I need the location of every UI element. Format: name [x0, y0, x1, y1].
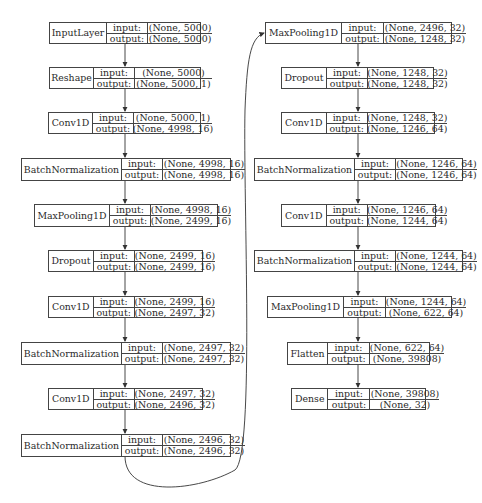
- layer-node-conv1d: Conv1D input:(None, 1246, 64) output:(No…: [281, 204, 436, 227]
- layer-name: Reshape: [50, 68, 94, 88]
- output-label: output:: [327, 79, 368, 89]
- input-label: input:: [93, 113, 134, 123]
- layer-node-conv1d: Conv1D input:(None, 5000, 1) output:(Non…: [48, 112, 201, 134]
- layer-name: BatchNormalization: [22, 435, 122, 456]
- input-shape: (None, 2497, 32): [135, 389, 215, 399]
- layer-name: Conv1D: [49, 297, 94, 317]
- output-label: output:: [122, 170, 163, 180]
- layer-node-conv1d: Conv1D input:(None, 2499, 16) output:(No…: [48, 296, 203, 318]
- input-shape: (None, 4998, 16): [151, 205, 231, 215]
- layer-node-batchnormalization: BatchNormalization input:(None, 1244, 64…: [254, 250, 463, 272]
- output-label: output:: [107, 34, 148, 44]
- layer-node-batchnormalization: BatchNormalization input:(None, 2496, 32…: [21, 434, 231, 457]
- output-shape: (None, 622, 64): [386, 308, 466, 318]
- layer-name: Conv1D: [282, 113, 327, 133]
- input-label: input:: [355, 251, 396, 261]
- input-shape: (None, 5000): [148, 23, 212, 33]
- input-label: input:: [355, 159, 396, 169]
- output-label: output:: [110, 216, 151, 226]
- input-label: input:: [342, 23, 384, 33]
- input-label: input:: [94, 251, 135, 261]
- layer-name: Conv1D: [282, 205, 327, 226]
- input-label: input:: [328, 343, 370, 353]
- output-shape: (None, 2499, 16): [151, 216, 231, 226]
- layer-name: BatchNormalization: [255, 159, 355, 180]
- input-shape: (None, 1244, 64): [386, 297, 466, 307]
- layer-name: BatchNormalization: [255, 251, 355, 271]
- layer-node-conv1d: Conv1D input:(None, 1248, 32) output:(No…: [281, 112, 435, 134]
- input-shape: (None, 2499, 16): [135, 297, 215, 307]
- layer-node-dropout: Dropout input:(None, 1248, 32) output:(N…: [281, 67, 434, 89]
- input-label: input:: [327, 68, 368, 78]
- layer-node-maxpooling1d: MaxPooling1D input:(None, 1244, 64) outp…: [267, 296, 452, 318]
- output-shape: (None, 2497, 32): [135, 308, 215, 318]
- output-label: output:: [94, 79, 135, 89]
- output-label: output:: [344, 308, 386, 318]
- input-shape: (None, 5000, 1): [134, 113, 212, 123]
- input-shape: (None, 1244, 64): [396, 251, 477, 261]
- output-label: output:: [355, 170, 396, 180]
- layer-name: MaxPooling1D: [35, 205, 110, 226]
- output-label: output:: [93, 124, 134, 134]
- layer-name: Conv1D: [49, 389, 94, 409]
- layer-name: Dropout: [49, 251, 94, 271]
- layer-node-batchnormalization: BatchNormalization input:(None, 2497, 32…: [21, 342, 231, 365]
- input-label: input:: [94, 297, 135, 307]
- layer-name: Conv1D: [49, 113, 93, 133]
- input-shape: (None, 5000): [135, 68, 212, 78]
- output-shape: (None, 4998, 16): [134, 124, 212, 134]
- output-label: output:: [342, 34, 384, 44]
- output-shape: (None, 5000, 1): [135, 79, 212, 89]
- output-label: output:: [328, 400, 370, 410]
- input-label: input:: [344, 297, 386, 307]
- input-shape: (None, 1246, 64): [368, 205, 447, 215]
- output-label: output:: [94, 308, 135, 318]
- input-label: input:: [107, 23, 148, 33]
- layer-node-inputlayer: InputLayer input:(None, 5000) output:(No…: [49, 22, 201, 44]
- layer-name: MaxPooling1D: [268, 297, 344, 317]
- output-shape: (None, 1248, 32): [368, 79, 447, 89]
- layer-node-dropout: Dropout input:(None, 2499, 16) output:(N…: [48, 250, 203, 272]
- output-shape: (None, 2496, 32): [163, 446, 245, 456]
- layer-name: Dense: [292, 389, 328, 409]
- output-label: output:: [327, 124, 368, 134]
- output-shape: (None, 1246, 64): [368, 124, 447, 134]
- layer-node-conv1d: Conv1D input:(None, 2497, 32) output:(No…: [48, 388, 203, 410]
- input-shape: (None, 4998, 16): [163, 159, 245, 169]
- layer-node-maxpooling1d: MaxPooling1D input:(None, 2496, 32) outp…: [265, 22, 452, 44]
- input-label: input:: [122, 159, 163, 169]
- input-shape: (None, 2499, 16): [135, 251, 215, 261]
- layer-node-batchnormalization: BatchNormalization input:(None, 1246, 64…: [254, 158, 463, 181]
- output-shape: (None, 4998, 16): [163, 170, 245, 180]
- layer-name: Dropout: [282, 68, 327, 88]
- input-label: input:: [122, 435, 163, 445]
- layer-node-batchnormalization: BatchNormalization input:(None, 4998, 16…: [21, 158, 231, 181]
- input-shape: (None, 2496, 32): [163, 435, 245, 445]
- layer-node-maxpooling1d: MaxPooling1D input:(None, 4998, 16) outp…: [34, 204, 218, 227]
- input-shape: (None, 39808): [370, 389, 439, 399]
- layer-node-flatten: Flatten input:(None, 622, 64) output:(No…: [287, 342, 430, 365]
- input-shape: (None, 2497, 32): [163, 343, 245, 353]
- layer-name: BatchNormalization: [22, 159, 122, 180]
- layer-name: BatchNormalization: [22, 343, 122, 364]
- input-label: input:: [327, 113, 368, 123]
- output-label: output:: [327, 216, 368, 226]
- input-shape: (None, 622, 64): [370, 343, 444, 353]
- output-shape: (None, 39808): [370, 354, 444, 364]
- output-shape: (None, 1244, 64): [396, 262, 477, 272]
- input-shape: (None, 1248, 32): [368, 113, 447, 123]
- output-shape: (None, 1244, 64): [368, 216, 447, 226]
- output-shape: (None, 2497, 32): [163, 354, 245, 364]
- input-shape: (None, 1246, 64): [396, 159, 477, 169]
- layer-node-dense: Dense input:(None, 39808) output:(None, …: [291, 388, 426, 410]
- output-shape: (None, 2499, 16): [135, 262, 215, 272]
- layer-name: Flatten: [288, 343, 328, 364]
- output-shape: (None, 32): [370, 400, 439, 410]
- input-label: input:: [122, 343, 163, 353]
- layer-name: MaxPooling1D: [266, 23, 342, 43]
- input-label: input:: [94, 389, 135, 399]
- input-shape: (None, 1248, 32): [368, 68, 447, 78]
- input-label: input:: [94, 68, 135, 78]
- output-shape: (None, 2496, 32): [135, 400, 215, 410]
- output-shape: (None, 1248, 32): [384, 34, 466, 44]
